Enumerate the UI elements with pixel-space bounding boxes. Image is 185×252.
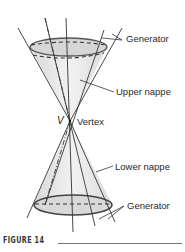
figure-caption: FIGURE 14 [3,236,44,245]
label-generator-top: Generator [126,34,169,44]
lower-ellipse [34,195,112,215]
label-vertex: Vertex [77,117,104,127]
label-lower-nappe: Lower nappe [115,162,170,172]
label-vertex-symbol: V [57,116,64,126]
label-upper-nappe: Upper nappe [116,87,171,97]
label-generator-bottom: Generator [127,201,170,211]
vertex-point [69,120,71,122]
upper-ellipse [30,38,107,56]
caption-rule [58,243,182,244]
